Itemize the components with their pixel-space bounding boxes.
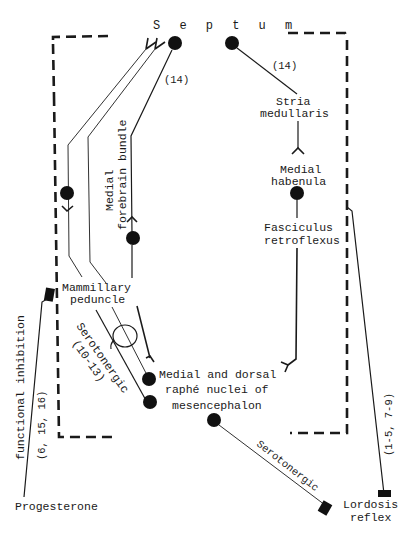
fasciculus-to-raphe-fiber	[288, 248, 297, 365]
septum-right-node	[225, 36, 239, 50]
lordosis-label-line1: Lordosis	[343, 498, 398, 511]
raphe-lower-node	[143, 395, 157, 409]
ref-14-right: (14)	[272, 60, 297, 72]
raphe-label-line3: mesencephalon	[172, 399, 262, 412]
fasciculus-arrowhead-icon	[281, 362, 288, 372]
medial-habenula-node	[290, 186, 304, 200]
raphe-output-node	[207, 413, 221, 427]
mfb-label-line1: Medial	[103, 169, 116, 211]
serotonergic-right-label: Serotonergic	[254, 438, 321, 494]
serotonergic-right-fiber	[219, 425, 325, 505]
progesterone-label: Progesterone	[15, 500, 98, 513]
habenula-arrowhead-icon	[292, 148, 304, 154]
fiber-loop-tail	[111, 340, 114, 349]
fiber-mfb-to-raphe	[137, 306, 150, 358]
stria-label-line2: medullaris	[260, 107, 329, 120]
fasciculus-label-line2: retroflexus	[264, 234, 340, 247]
septum-label: S e p t u m	[153, 19, 298, 33]
septum-arrowhead-2-icon	[155, 38, 165, 49]
mammillary-neuron-node	[60, 186, 74, 200]
lordosis-label-line2: reflex	[350, 511, 392, 524]
mfb-neuron-node	[126, 231, 140, 245]
septum-left-node	[168, 36, 182, 50]
lordosis-terminal	[378, 490, 391, 497]
raphe-label-line1: Medial and dorsal	[159, 368, 276, 381]
habenula-label-line2: habenula	[271, 175, 326, 188]
functional-inhibition-label: functional inhibition	[14, 315, 27, 460]
refs-6-15-16: (6, 15, 16)	[36, 391, 48, 460]
raphe-arrowhead-icon	[146, 356, 154, 362]
ref-14-left: (14)	[164, 74, 189, 86]
fasciculus-label-line1: Fasciculus	[264, 221, 333, 234]
refs-1-5-7-9: (1-5, 7-9)	[383, 393, 395, 456]
raphe-label-line2: raphé nuclei of	[165, 383, 269, 396]
mammillary-label-line2: peduncle	[70, 293, 125, 306]
raphe-upper-node	[142, 372, 156, 386]
mfb-label-line2: forebrain bundle	[116, 119, 129, 230]
fiber-loop	[113, 325, 137, 347]
neural-pathway-diagram: S e p t u m (14) Medial forebrain bundle…	[0, 0, 420, 538]
serotonergic-terminal	[318, 500, 333, 515]
mammillary-arrowhead-icon	[62, 206, 73, 211]
lordosis-fiber	[347, 207, 384, 494]
